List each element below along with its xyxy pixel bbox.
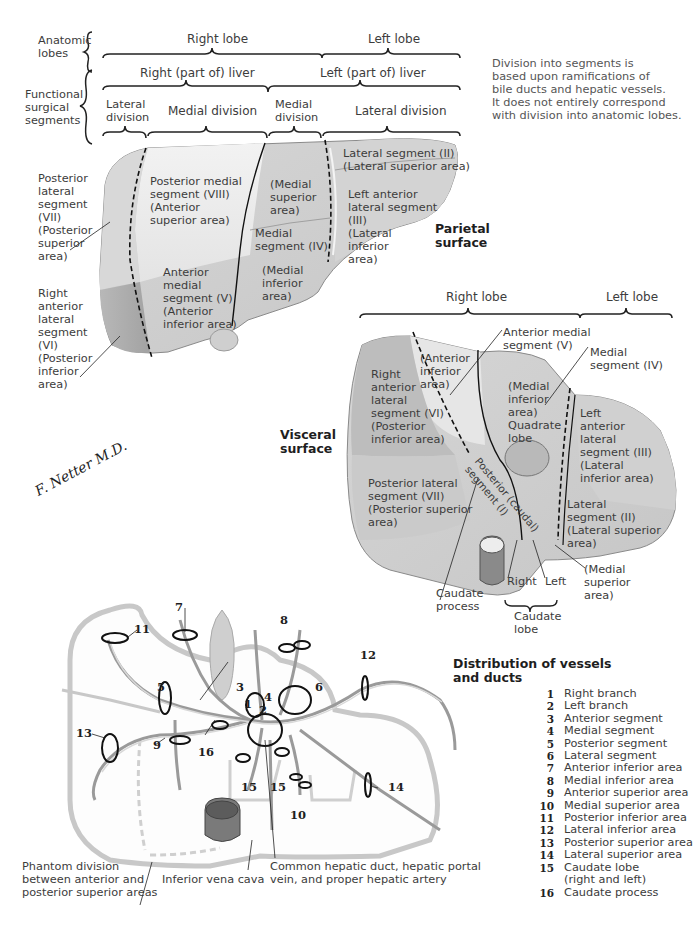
caudate-left-label: Left [545,575,566,588]
legend-item: 2Left branch [530,700,693,712]
header-left-lobe: Left lobe [368,32,420,46]
legend-item: 4Medial segment [530,725,693,737]
legend-item: 14Lateral superior area [530,849,693,861]
visceral-posterior-lateral: Posterior lateral segment (VII) (Posteri… [368,477,472,529]
gallbladder [210,610,235,700]
common-hepatic-label: Common hepatic duct, hepatic portal vein… [270,860,481,886]
header-right-lobe: Right lobe [187,32,248,46]
parietal-left-anterior-lateral: Left anterior lateral segment (III) (Lat… [348,188,437,266]
visceral-medial-segment-callout: Medial segment (IV) [590,346,663,372]
visceral-left-lobe: Left lobe [606,290,658,304]
parietal-medial-segment: Medial segment (IV) [255,227,328,253]
parietal-lateral-segment: Lateral segment (II) (Lateral superior a… [343,147,470,173]
caudate-process-callout: Caudate process [436,587,483,613]
functional-segments-label: Functional surgical segments [25,88,83,127]
vessel-num-1: 1 [244,697,252,711]
parietal-medial-superior: (Medial superior area) [270,178,317,217]
vessel-num-12: 12 [360,648,376,662]
vessel-num-15-right: 15 [241,780,257,794]
vessel-num-4: 4 [264,690,272,704]
header-lateral-division-left: Lateral division [355,104,446,118]
header-medial-division-right: Medial division [168,104,257,118]
visceral-surface-title: Visceral surface [280,428,336,456]
vessel-num-15-left: 15 [270,780,286,794]
vessel-num-8: 8 [280,613,288,627]
parietal-posterior-medial-segment: Posterior medial segment (VIII) (Anterio… [150,175,242,227]
brace-divisions [103,126,460,138]
anatomic-lobes-label: Anatomic lobes [38,34,92,60]
brace-parts [103,80,460,92]
visceral-anterior-medial-callout: Anterior medial segment (V) [503,326,591,352]
legend-item: 16Caudate process [530,887,693,899]
vessel-num-2: 2 [259,703,267,717]
header-lateral-division-right: Lateral division [106,98,149,124]
parietal-surface-title: Parietal surface [435,222,490,250]
parietal-posterior-lateral-label: Posterior lateral segment (VII) (Posteri… [38,172,92,263]
visceral-left-anterior-lateral: Left anterior lateral segment (III) (Lat… [580,407,654,485]
vessel-num-14: 14 [388,780,404,794]
parietal-anterior-medial-segment: Anterior medial segment (V) (Anterior in… [163,266,237,331]
vessel-num-10: 10 [290,808,306,822]
ivc-label: Inferior vena cava [162,873,264,886]
phantom-division-label: Phantom division between anterior and po… [22,860,157,899]
vessel-legend: 1Right branch 2Left branch 3Anterior seg… [530,688,693,899]
legend-item: 12Lateral inferior area [530,824,693,836]
legend-item: 15Caudate lobe (right and left) [530,862,693,887]
vessel-num-7: 7 [175,600,183,614]
caudate-lobe-label: Caudate lobe [514,610,561,636]
legend-item: 9Anterior superior area [530,787,693,799]
segment-note: Division into segments is based upon ram… [492,57,682,122]
visceral-medial-superior-callout: (Medial superior area) [584,563,631,602]
brace-anatomic-lobes [103,48,460,58]
visceral-right-lobe: Right lobe [446,290,507,304]
vessels-title: Distribution of vessels and ducts [453,657,612,685]
gallbladder-tip [210,329,238,351]
legend-item: 7Anterior inferior area [530,762,693,774]
header-left-part-liver: Left (part of) liver [320,66,426,80]
vessel-num-9: 9 [153,738,161,752]
vessel-num-11: 11 [134,622,150,636]
vessel-num-6: 6 [315,680,323,694]
parietal-right-anterior-lateral-label: Right anterior lateral segment (VI) (Pos… [38,287,92,391]
visceral-lateral-segment: Lateral segment (II) (Lateral superior a… [567,498,661,550]
vessel-num-5: 5 [157,680,165,694]
header-medial-division-left: Medial division [275,98,318,124]
parietal-medial-inferior: (Medial inferior area) [262,264,303,303]
vessel-num-13: 13 [76,726,92,740]
visceral-right-anterior-lateral: Right anterior lateral segment (VI) (Pos… [371,368,445,446]
vessel-num-3: 3 [236,680,244,694]
vessel-num-16: 16 [198,745,214,759]
brace-visceral [360,308,672,318]
header-right-part-liver: Right (part of) liver [140,66,255,80]
caudate-right-label: Right [507,575,537,588]
visceral-medial-inferior-quadrate: (Medial inferior area) Quadrate lobe [508,380,561,445]
